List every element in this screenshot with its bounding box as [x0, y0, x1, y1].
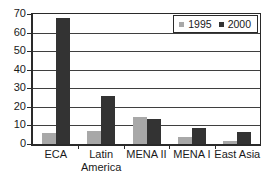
plot-area: 1995 2000 [31, 13, 261, 146]
legend-label-2000: 2000 [228, 18, 251, 30]
y-tick-30 [27, 88, 31, 89]
y-tick-label-70: 70 [2, 7, 26, 19]
legend-swatch-1995-icon [179, 22, 184, 27]
bar-1995-eca [42, 133, 56, 144]
y-tick-50 [27, 51, 31, 52]
legend-item-2000: 2000 [219, 18, 251, 30]
bar-2000-latin-america [101, 96, 115, 144]
y-tick-label-10: 10 [2, 118, 26, 130]
legend-swatch-2000-icon [219, 22, 224, 27]
y-tick-label-0: 0 [2, 137, 26, 149]
bar-2000-east-asia [237, 132, 251, 144]
y-tick-label-20: 20 [2, 100, 26, 112]
y-tick-label-50: 50 [2, 44, 26, 56]
y-tick-label-60: 60 [2, 26, 26, 38]
y-tick-label-40: 40 [2, 63, 26, 75]
bar-2000-mena-ii [147, 119, 161, 144]
y-tick-20 [27, 107, 31, 108]
bar-2000-eca [56, 18, 70, 144]
legend-item-1995: 1995 [179, 18, 211, 30]
y-tick-10 [27, 125, 31, 126]
y-axis: 010203040506070 [2, 13, 26, 143]
y-tick-0 [27, 144, 31, 145]
grouped-bar-chart: 010203040506070 1995 2000 ECALatin Ameri… [0, 0, 264, 186]
bar-1995-mena-ii [133, 117, 147, 144]
y-tick-70 [27, 14, 31, 15]
y-tick-label-30: 30 [2, 81, 26, 93]
legend: 1995 2000 [173, 15, 258, 33]
y-tick-40 [27, 70, 31, 71]
x-axis: ECALatin AmericaMENA IIMENA IEast Asia [33, 148, 260, 184]
bar-1995-latin-america [87, 131, 101, 144]
bar-1995-mena-i [178, 137, 192, 144]
legend-label-1995: 1995 [188, 18, 211, 30]
bar-2000-mena-i [192, 128, 206, 144]
y-tick-60 [27, 33, 31, 34]
bar-1995-east-asia [223, 141, 237, 144]
x-label-east-asia: East Asia [210, 148, 264, 161]
